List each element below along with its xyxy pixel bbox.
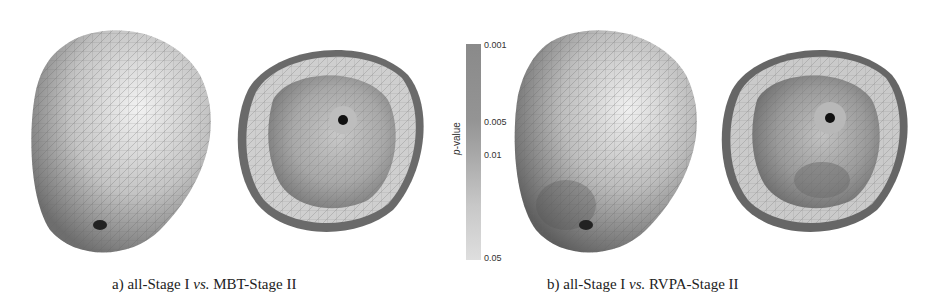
colorbar-title-p: p — [451, 149, 462, 155]
panel-b-interior-mesh — [712, 30, 917, 240]
caption-vs: vs. — [193, 276, 209, 292]
caption-prefix: a) all-Stage I — [112, 276, 193, 292]
caption-suffix: MBT-Stage II — [209, 276, 296, 292]
panel-a-exterior-mesh — [20, 15, 220, 260]
caption-prefix: b) all-Stage I — [547, 276, 629, 292]
caption-suffix: RVPA-Stage II — [645, 276, 738, 292]
panel-b-exterior-mesh — [506, 15, 706, 260]
panel-a-caption: a) all-Stage I vs. MBT-Stage II — [112, 276, 296, 293]
colorbar-title: p-value — [451, 109, 462, 169]
colorbar-tick-0.001: 0.001 — [484, 40, 507, 50]
panel-a-interior-mesh — [228, 30, 433, 240]
colorbar-tick-0.05: 0.05 — [484, 253, 502, 263]
p-value-colorbar — [466, 44, 481, 260]
panel-b-caption: b) all-Stage I vs. RVPA-Stage II — [547, 276, 739, 293]
colorbar-title-rest: -value — [451, 122, 462, 149]
colorbar-tick-0.005: 0.005 — [484, 117, 507, 127]
caption-vs: vs. — [629, 276, 645, 292]
colorbar-tick-0.01: 0.01 — [484, 150, 502, 160]
